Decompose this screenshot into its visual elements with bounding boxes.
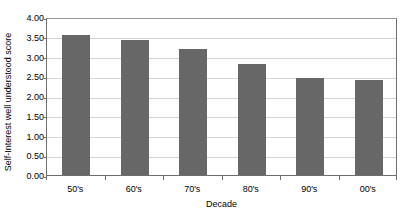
y-axis-tick-label: 0.00 <box>16 171 44 181</box>
bar-chart: Self-Interest well understood score 0.00… <box>0 0 413 223</box>
bars-layer <box>47 19 396 175</box>
y-axis-tick-label: 1.50 <box>16 112 44 122</box>
x-axis-tick-mark <box>396 176 397 180</box>
bar <box>179 49 207 175</box>
bar-slot <box>340 19 399 175</box>
y-axis-tick-label: 2.00 <box>16 92 44 102</box>
y-axis-tick-mark <box>44 98 47 99</box>
x-axis-tick-label: 50's <box>46 183 105 195</box>
bar <box>238 64 266 175</box>
y-axis-tick-label: 4.00 <box>16 13 44 23</box>
x-axis-tick-label: 80's <box>222 183 281 195</box>
x-axis-tick-label: 70's <box>163 183 222 195</box>
y-axis-tick-label: 1.00 <box>16 132 44 142</box>
x-axis-tick-label: 90's <box>280 183 339 195</box>
bar-slot <box>223 19 282 175</box>
y-axis-tick-mark <box>44 38 47 39</box>
y-axis-tick-labels: 0.000.501.001.502.002.503.003.504.00 <box>16 13 44 177</box>
x-axis-tick-mark <box>105 176 106 180</box>
y-axis-tick-mark <box>44 117 47 118</box>
bar <box>62 35 90 175</box>
y-axis-tick-label: 2.50 <box>16 72 44 82</box>
y-axis-tick-mark <box>44 157 47 158</box>
plot-area <box>46 18 397 176</box>
bar-slot <box>281 19 340 175</box>
y-axis-tick-label: 3.00 <box>16 53 44 63</box>
y-axis-tick-mark <box>44 19 47 20</box>
x-axis-tick-mark <box>280 176 281 180</box>
x-axis-tick-mark <box>222 176 223 180</box>
bar <box>121 40 149 175</box>
bar <box>296 78 324 175</box>
y-axis-tick-mark <box>44 58 47 59</box>
x-axis-tick-labels: 50's60's70's80's90's00's <box>46 183 397 197</box>
bar <box>355 80 383 175</box>
x-axis-tick-label: 60's <box>105 183 164 195</box>
x-axis-tick-mark <box>46 176 47 180</box>
y-axis-tick-label: 3.50 <box>16 33 44 43</box>
y-axis-tick-mark <box>44 137 47 138</box>
x-axis-tick-marks <box>46 176 397 181</box>
y-axis-tick-mark <box>44 78 47 79</box>
bar-slot <box>164 19 223 175</box>
y-axis-tick-label: 0.50 <box>16 151 44 161</box>
bar-slot <box>47 19 106 175</box>
x-axis-tick-mark <box>163 176 164 180</box>
x-axis-title: Decade <box>46 198 397 210</box>
y-axis-title: Self-Interest well understood score <box>1 12 15 192</box>
bar-slot <box>106 19 165 175</box>
x-axis-tick-mark <box>339 176 340 180</box>
x-axis-tick-label: 00's <box>339 183 398 195</box>
